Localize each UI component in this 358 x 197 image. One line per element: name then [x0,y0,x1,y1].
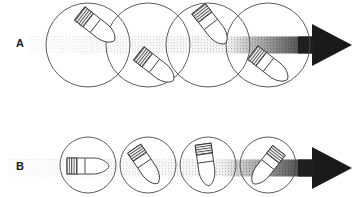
row-a-trajectory-band [28,37,312,54]
row-a-group [28,3,352,87]
row-label-a: A [16,37,24,49]
bullet-b-3 [195,143,217,187]
ballistics-figure [0,0,358,197]
row-a-arrow-head [298,24,352,66]
row-b-group [8,137,352,193]
row-b-arrow-head [298,147,352,189]
row-label-b: B [16,160,24,172]
bullet-b-1 [67,158,109,174]
